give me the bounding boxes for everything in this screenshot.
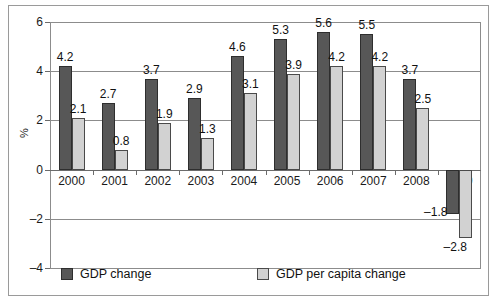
x-axis-label: 2006 [309,174,352,188]
bar [330,66,343,169]
category-group: 20065.64.2 [309,22,352,268]
bar-value-label: 4.6 [223,40,251,54]
bar [145,79,158,170]
bar [416,108,429,170]
x-axis-label: 2004 [222,174,265,188]
category-group: 20023.71.9 [136,22,179,268]
legend-swatch-icon [61,268,73,280]
bar-value-label: 3.7 [137,63,165,77]
bar [459,170,472,239]
bar-value-label: 3.1 [236,77,264,91]
bar-value-label: 1.3 [193,122,221,136]
legend-label: GDP per capita change [276,267,406,281]
legend-label: GDP change [80,267,151,281]
bar [244,93,257,169]
category-group: 20004.22.1 [50,22,93,268]
x-axis-label: 2002 [136,174,179,188]
category-group: 20044.63.1 [222,22,265,268]
y-axis-title: % [18,128,30,138]
bar-value-label: 3.7 [396,63,424,77]
bar-value-label: 4.2 [366,50,394,64]
x-axis-label: 2003 [179,174,222,188]
bar-value-label: 4.2 [323,50,351,64]
bar-value-label: 2.1 [64,102,92,116]
bar-value-label: 5.6 [310,16,338,30]
bar [59,66,72,169]
bar-value-label: 1.9 [150,107,178,121]
bar-value-label: 2.5 [409,92,437,106]
plot-area: 6420–2–4 20004.22.120012.70.820023.71.92… [50,22,481,268]
y-tick-label-2: 2 [36,113,43,127]
bar [287,74,300,170]
y-tick-label-0: 0 [36,163,43,177]
bar-value-label: 2.7 [94,87,122,101]
category-group: 20075.54.2 [352,22,395,268]
x-axis-label: 2001 [93,174,136,188]
bar-value-label: –1.8 [419,205,447,219]
x-axis-label: 2000 [50,174,93,188]
chart-legend: GDP changeGDP per capita change [9,263,488,289]
bar [72,118,85,170]
legend-entry[interactable]: GDP change [61,267,151,281]
category-group: 20012.70.8 [93,22,136,268]
y-tick-label-6: 6 [36,15,43,29]
category-group: 20083.72.5 [395,22,438,268]
bar-value-label: 0.8 [107,134,135,148]
legend-entry[interactable]: GDP per capita change [257,267,406,281]
x-axis-label: 2008 [395,174,438,188]
bar-value-label: 5.5 [353,18,381,32]
bar [446,170,459,214]
bar-value-label: 3.9 [280,58,308,72]
bar [231,56,244,169]
bar [115,150,128,170]
bar-value-label: –2.8 [439,240,467,254]
bar [201,138,214,170]
category-group: 20032.91.3 [179,22,222,268]
y-tick-label--2: –2 [30,212,43,226]
category-group: 2009–1.8–2.8 [438,22,481,268]
bar [158,123,171,170]
chart-figure: % 6420–2–4 20004.22.120012.70.820023.71.… [8,5,489,296]
bar-value-label: 5.3 [267,23,295,37]
y-tick-label-4: 4 [36,64,43,78]
x-axis-label: 2005 [266,174,309,188]
x-axis-label: 2007 [352,174,395,188]
bar-value-label: 2.9 [180,82,208,96]
bar-value-label: 4.2 [51,50,79,64]
legend-swatch-icon [257,268,269,280]
bar [373,66,386,169]
category-group: 20055.33.9 [266,22,309,268]
